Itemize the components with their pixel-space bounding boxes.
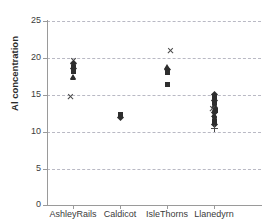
data-point-islethorns-17.7 [165,70,170,75]
gridline-20 [47,58,261,59]
scatter-chart: Al concentration 2520151050 AshleyRailsC… [0,0,274,224]
y-axis-line [47,20,48,206]
gridline-10 [47,132,261,133]
gridline-15 [47,95,261,96]
data-point-ashleyrails-16.7 [70,75,76,80]
x-axis-line [47,205,262,206]
data-point-ashleyrails-17.7 [71,69,76,74]
y-tick-25: 25 [0,16,41,25]
y-tick-label-5: 5 [5,164,41,173]
data-point-islethorns-16 [165,82,170,87]
gridline-25 [47,21,261,22]
y-tick-15: 15 [0,90,41,99]
y-tick-label-0: 0 [5,200,41,209]
y-tick-label-10: 10 [5,127,41,136]
y-tick-label-20: 20 [5,53,41,62]
y-axis-title: Al concentration [9,14,20,134]
data-point-llanedyrn-10.1 [211,125,218,132]
gridline-5 [47,169,261,170]
data-point-ashleyrails-14.8 [67,93,74,100]
y-tick-5: 5 [0,164,41,173]
y-tick-label-25: 25 [5,16,41,25]
data-point-islethorns-20.8 [167,47,174,54]
y-tick-0: 0 [0,200,41,209]
y-tick-label-15: 15 [5,90,41,99]
y-tick-20: 20 [0,53,41,62]
y-tick-10: 10 [0,127,41,136]
x-tick-label-llanedyrn: Llanedyrn [169,209,259,220]
